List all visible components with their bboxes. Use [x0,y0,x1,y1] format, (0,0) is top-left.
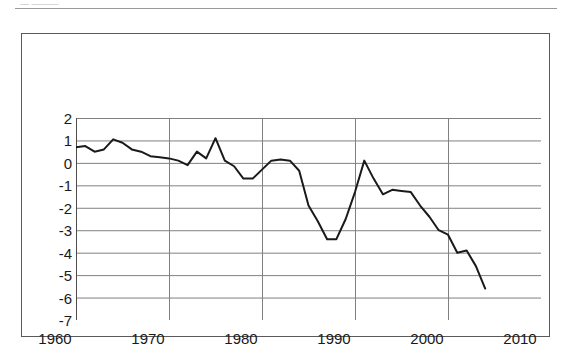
y-axis-tick-labels: 210-1-2-3-4-5-6-7 [44,106,72,336]
header-divider [15,8,557,9]
y-tick-label: 0 [44,156,72,171]
chart-svg [76,118,541,320]
clipped-header-text: — ——— [20,0,140,5]
axis-lines [76,118,541,320]
x-tick-label: 1990 [304,331,364,346]
y-tick-label: -6 [44,291,72,306]
grid-horizontal [76,119,541,321]
y-tick-label: 2 [44,111,72,126]
y-tick-label: 1 [44,133,72,148]
x-tick-label: 2010 [490,331,550,346]
y-tick-label: -1 [44,178,72,193]
data-line-series-1 [76,138,485,288]
x-tick-label: 1960 [25,331,85,346]
axis-ticks [76,119,541,321]
y-tick-label: -2 [44,201,72,216]
figure-page: — ——— 210-1-2-3-4-5-6-7 1960197019801990… [0,0,572,353]
y-tick-label: -7 [44,313,72,328]
chart-figure-frame: 210-1-2-3-4-5-6-7 1960197019801990200020… [21,33,550,337]
x-tick-label: 1980 [211,331,271,346]
chart-plot-area [76,118,541,320]
x-axis-tick-labels: 196019701980199020002010 [22,331,572,353]
grid-vertical [77,118,542,320]
y-tick-label: -4 [44,246,72,261]
y-tick-label: -5 [44,268,72,283]
x-tick-label: 1970 [118,331,178,346]
x-tick-label: 2000 [397,331,457,346]
y-tick-label: -3 [44,223,72,238]
